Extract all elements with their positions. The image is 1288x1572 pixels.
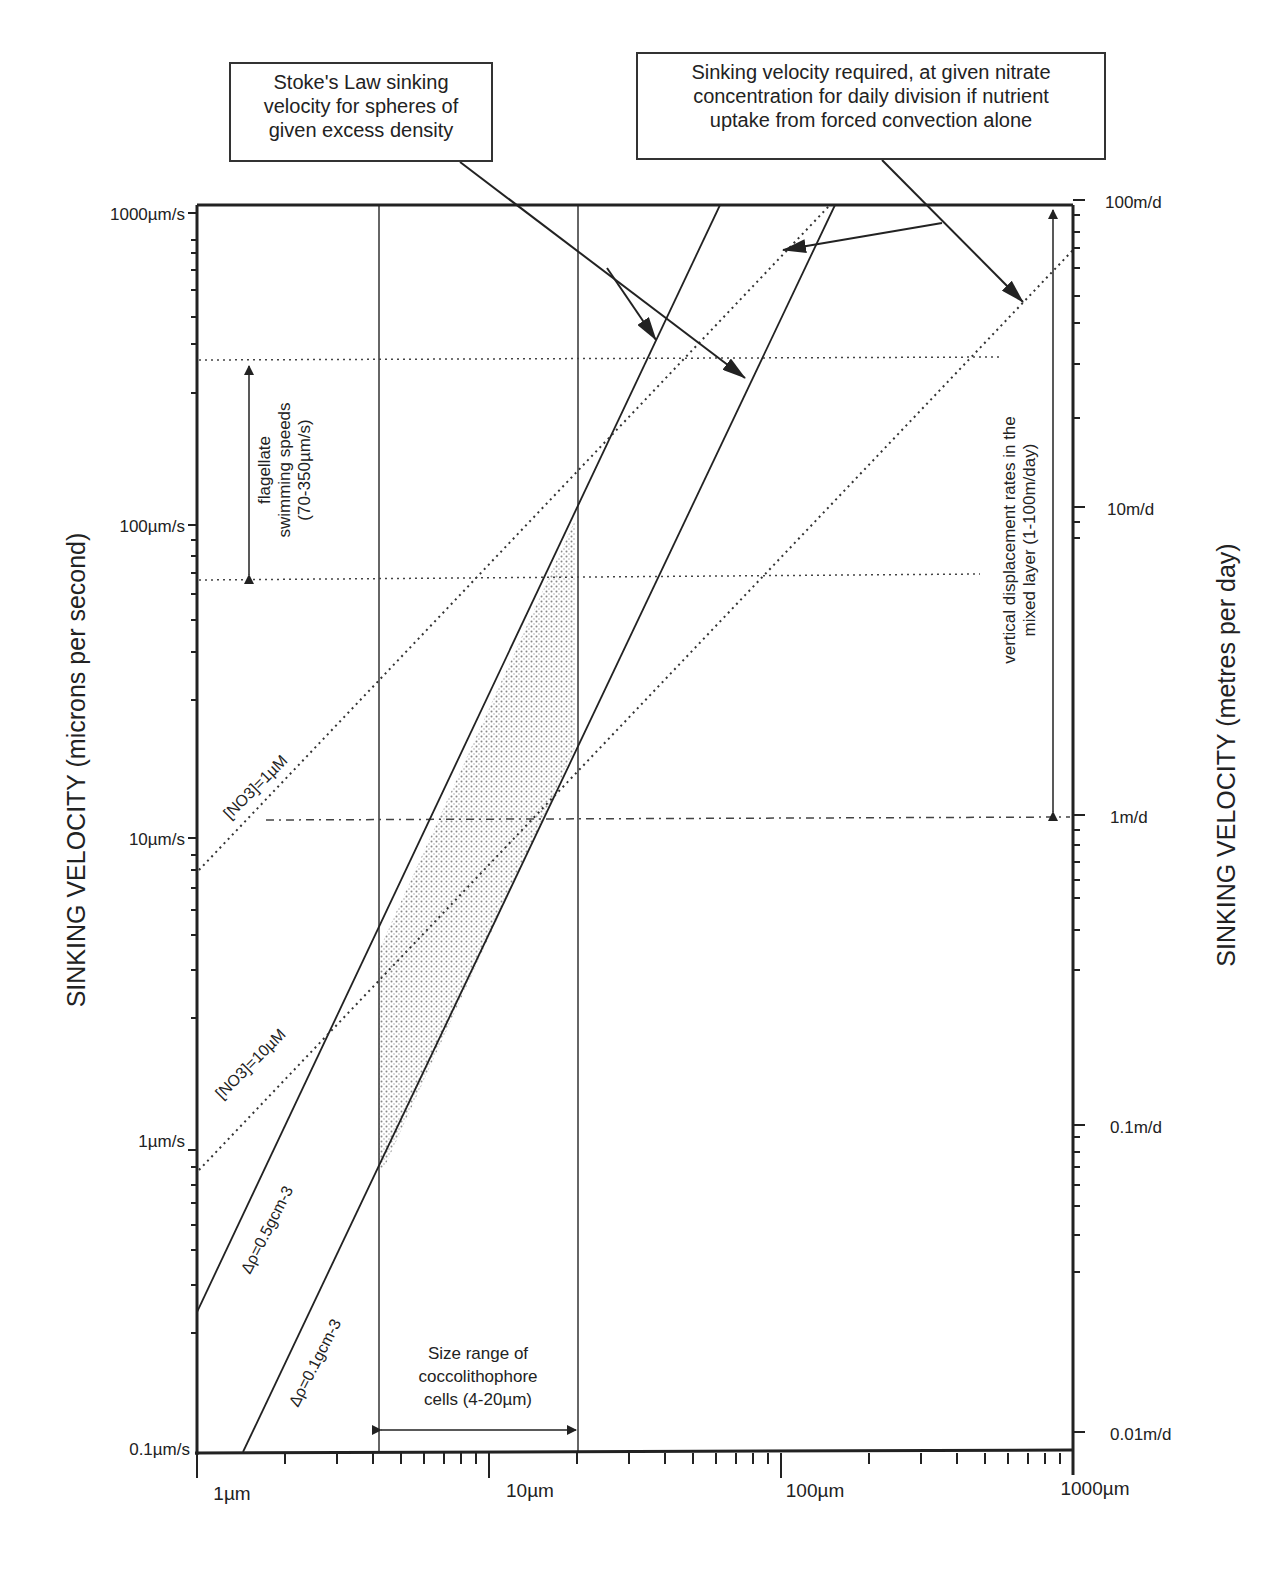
nitrate-callout-line1: Sinking velocity required, at given nitr…: [646, 60, 1096, 84]
left-tick-label: 1000µm/s: [110, 205, 185, 224]
bottom-axis: [195, 1450, 1073, 1453]
bottom-tick-label: 10µm: [506, 1480, 554, 1501]
vertical-displacement-label-line1: vertical displacement rates in the: [1000, 416, 1019, 664]
stokes-callout-line2: velocity for spheres of: [239, 94, 483, 118]
size-range-label-line3: cells (4-20µm): [424, 1390, 532, 1409]
nitrate-callout-line3: uptake from forced convection alone: [646, 108, 1096, 132]
flagellate-label-line3: (70-350µm/s): [295, 419, 314, 520]
flagellate-lower-line: [199, 574, 980, 580]
right-tick-label: 100m/d: [1105, 193, 1162, 212]
left-tick-label: 10µm/s: [129, 830, 185, 849]
density-0.5-label: Δρ=0.5gcm-3: [238, 1183, 297, 1276]
coccolithophore-shaded-region: [379, 520, 575, 1168]
nitrate-line-10uM: [199, 250, 1073, 1170]
right-tick-label: 10m/d: [1107, 500, 1154, 519]
stokes-law-callout: Stoke's Law sinking velocity for spheres…: [229, 62, 493, 162]
bottom-tick-label: 100µm: [786, 1480, 844, 1501]
left-tick-label: 0.1µm/s: [129, 1440, 190, 1459]
chart-canvas: 1000µm/s 100µm/s 10µm/s 1µm/s 0.1µm/s 10…: [0, 0, 1288, 1572]
flagellate-upper-line: [199, 357, 1000, 360]
flagellate-label-line2: swimming speeds: [275, 402, 294, 537]
right-tick-label: 0.01m/d: [1110, 1425, 1171, 1444]
density-0.1-label: Δρ=0.1gcm-3: [286, 1316, 345, 1409]
bottom-tick-label: 1µm: [213, 1483, 250, 1504]
left-tick-label: 100µm/s: [119, 517, 185, 536]
stokes-pointer-main: [460, 162, 745, 378]
right-axis-title: SINKING VELOCITY (metres per day): [1212, 543, 1240, 966]
stokes-callout-line3: given excess density: [239, 118, 483, 142]
stokes-line-0.1: [243, 205, 835, 1452]
stokes-callout-line1: Stoke's Law sinking: [239, 70, 483, 94]
nitrate-1uM-label: [NO3]=1µM: [220, 752, 290, 822]
size-range-label-line2: coccolithophore: [418, 1367, 537, 1386]
vertical-displacement-label-line2: mixed layer (1-100m/day): [1020, 444, 1039, 637]
bottom-tick-label: 1000µm: [1060, 1478, 1129, 1499]
left-tick-label: 1µm/s: [138, 1132, 185, 1151]
one-metre-per-day-line: [266, 817, 1070, 820]
nitrate-pointer-branch: [783, 223, 942, 250]
flagellate-label-line1: flagellate: [255, 436, 274, 504]
nitrate-pointer-main: [882, 160, 1023, 302]
right-axis-ticks: [1073, 200, 1085, 1432]
nitrate-10uM-label: [NO3]=10µM: [212, 1025, 289, 1102]
nitrate-callout-line2: concentration for daily division if nutr…: [646, 84, 1096, 108]
right-tick-label: 1m/d: [1110, 808, 1148, 827]
right-tick-label: 0.1m/d: [1110, 1118, 1162, 1137]
left-axis-title: SINKING VELOCITY (microns per second): [62, 533, 90, 1008]
nitrate-callout: Sinking velocity required, at given nitr…: [636, 52, 1106, 160]
size-range-label-line1: Size range of: [428, 1344, 528, 1363]
bottom-axis-ticks: [197, 1453, 1060, 1478]
